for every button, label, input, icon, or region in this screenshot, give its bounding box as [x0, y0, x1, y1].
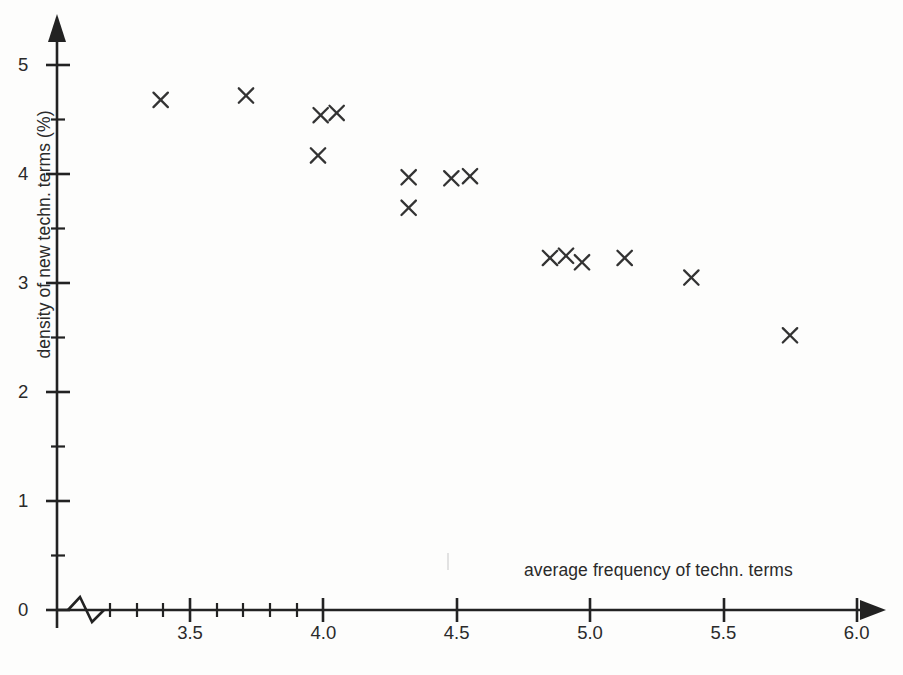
data-point	[401, 170, 415, 184]
data-point	[153, 93, 167, 107]
data-point	[313, 108, 327, 122]
data-point	[239, 88, 253, 102]
x-tick-label: 5.5	[710, 622, 736, 644]
data-point	[444, 171, 458, 185]
data-point	[783, 328, 797, 342]
data-point	[463, 169, 477, 183]
y-tick-label: 2	[18, 381, 28, 403]
data-point	[401, 201, 415, 215]
data-point	[311, 148, 325, 162]
scatter-plot-figure: density of new techn. terms (%) average …	[0, 0, 903, 675]
x-tick-label: 4.0	[310, 622, 336, 644]
data-point	[684, 270, 698, 284]
x-tick-label: 3.5	[177, 622, 203, 644]
x-tick-label: 5.0	[577, 622, 603, 644]
x-axis	[57, 600, 886, 620]
y-tick-label: 1	[18, 490, 28, 512]
y-tick-label: 3	[18, 272, 28, 294]
data-point	[543, 251, 557, 265]
data-point	[617, 251, 631, 265]
scan-artifact	[447, 553, 449, 570]
data-markers	[153, 88, 797, 342]
y-axis-label: density of new techn. terms (%)	[34, 85, 55, 385]
x-axis-label: average frequency of techn. terms	[524, 560, 793, 581]
y-tick-label: 5	[18, 54, 28, 76]
y-tick-label: 4	[18, 163, 28, 185]
data-point	[559, 249, 573, 263]
data-point	[575, 255, 589, 269]
y-tick-label: 0	[18, 599, 28, 621]
x-tick-label: 6.0	[844, 622, 870, 644]
data-point	[329, 106, 343, 120]
x-tick-label: 4.5	[444, 622, 470, 644]
